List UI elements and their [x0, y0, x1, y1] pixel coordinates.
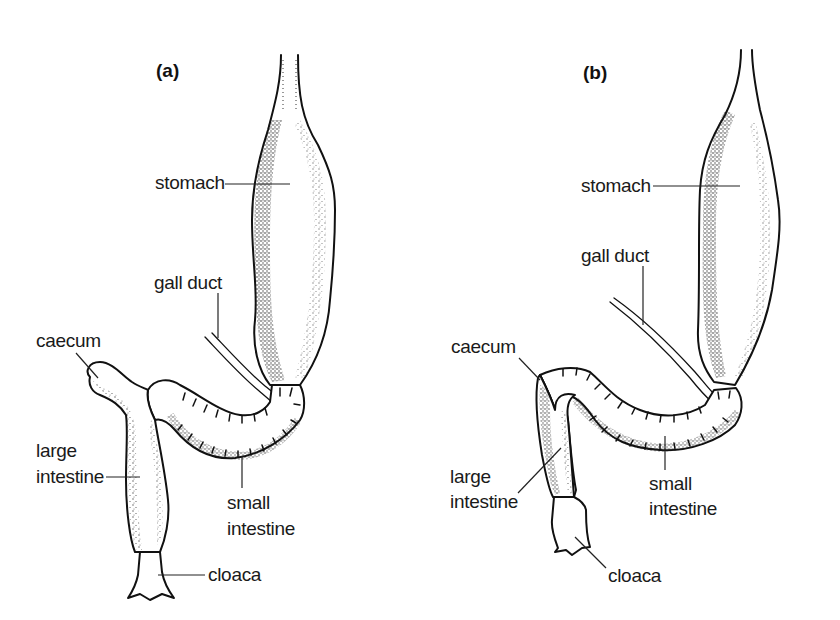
- cloaca-a-label: cloaca: [208, 564, 261, 586]
- stomach-a-label: stomach: [155, 172, 225, 194]
- stomach-b-label: stomach: [581, 175, 651, 197]
- caecum-a-label: caecum: [36, 330, 101, 352]
- panel-a-label: (a): [156, 60, 179, 82]
- stomach-a-shape: [252, 55, 335, 385]
- stomach-b-shape: [698, 50, 780, 385]
- small-intestine-a-label-line1: small: [227, 492, 270, 514]
- large-intestine-b-label-line1: large: [450, 466, 491, 488]
- gall-duct-b-label: gall duct: [581, 245, 649, 267]
- large-intestine-b-label-line2: intestine: [450, 491, 518, 513]
- small-intestine-a-shape: [147, 380, 304, 458]
- diagram-canvas: [0, 0, 840, 620]
- leader-lines: [76, 184, 740, 575]
- cloaca-a-shape: [128, 552, 174, 600]
- caecum-b-leader: [519, 358, 540, 380]
- cloaca-b-leader: [575, 537, 606, 568]
- large-intestine-a-label-line2: intestine: [36, 466, 104, 488]
- panel-b-label: (b): [583, 62, 607, 84]
- digestive-tract-figure: (a) stomach gall duct caecum large intes…: [0, 0, 840, 620]
- panel-a-drawing: [88, 55, 335, 600]
- large-intestine-a-label-line1: large: [36, 440, 77, 462]
- gall-duct-a-label: gall duct: [154, 272, 222, 294]
- small-intestine-a-label-line2: intestine: [227, 518, 295, 540]
- cloaca-b-label: cloaca: [608, 565, 661, 587]
- small-intestine-b-label-line1: small: [649, 473, 692, 495]
- small-intestine-b-label-line2: intestine: [649, 498, 717, 520]
- caecum-b-label: caecum: [451, 336, 516, 358]
